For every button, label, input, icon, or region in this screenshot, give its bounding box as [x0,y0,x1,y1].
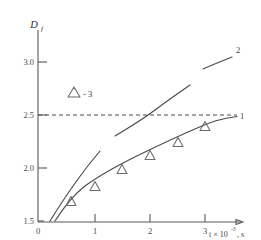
legend-marker-triangle [68,87,80,97]
y-axis-title-subscript: f [41,25,44,33]
data-point-marker [173,138,183,147]
x-tick-label-2: 2 [148,226,152,236]
y-axis-title: D [29,19,38,30]
y-tick-label-2-0: 2.0 [23,163,34,173]
x-axis-title-exponent: -3 [231,226,236,232]
chart-canvas: 3.0 2.5 2.0 1.5 0 1 2 3 D f t × 10 -3 , … [0,0,261,240]
y-tick-label-3-0: 3.0 [23,57,34,67]
series-1-curve [55,117,237,222]
series-2-curve [203,57,232,69]
y-tick-label-2-5: 2.5 [23,110,34,120]
x-tick-label-0: 0 [36,226,40,236]
x-axis-title-unit: , s [237,230,244,239]
series-1-label: 1 [240,111,244,121]
x-tick-label-1: 1 [93,226,97,236]
legend-label-3: - 3 [83,89,92,99]
figure-container: 3.0 2.5 2.0 1.5 0 1 2 3 D f t × 10 -3 , … [0,0,261,240]
series-2-label: 2 [236,45,240,55]
x-axis-title: t × 10 [209,230,228,239]
x-tick-label-3: 3 [203,226,207,236]
y-tick-label-1-5: 1.5 [23,216,34,226]
data-point-marker [90,182,100,191]
series-steep-middle-curve [115,85,190,136]
